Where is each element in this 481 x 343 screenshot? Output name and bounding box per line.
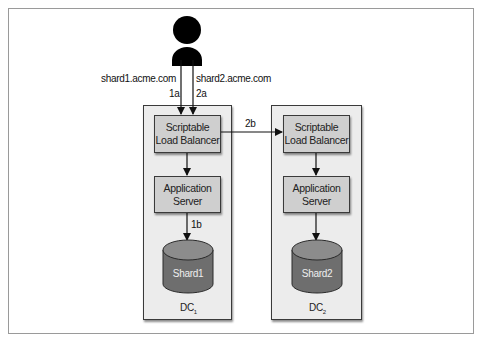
diagram-lines [0, 0, 481, 343]
step-label-1b: 1b [191, 219, 202, 230]
step-label-1a: 1a [169, 88, 180, 99]
step-label-2b: 2b [245, 118, 256, 129]
dc1-label: DC1 [180, 302, 197, 315]
dc2-name: DC [309, 302, 323, 313]
shard1-label: Shard1 [163, 268, 213, 279]
database-cylinder-shard1 [163, 240, 213, 293]
person-icon [172, 16, 202, 66]
route-label-shard1: shard1.acme.com [101, 73, 176, 84]
dc2-subscript: 2 [323, 309, 326, 315]
dc1-subscript: 1 [194, 309, 197, 315]
dc1-name: DC [180, 302, 194, 313]
dc2-label: DC2 [309, 302, 326, 315]
shard2-label: Shard2 [292, 268, 342, 279]
database-cylinder-shard2 [292, 240, 342, 293]
route-label-shard2: shard2.acme.com [196, 73, 271, 84]
step-label-2a: 2a [196, 88, 207, 99]
